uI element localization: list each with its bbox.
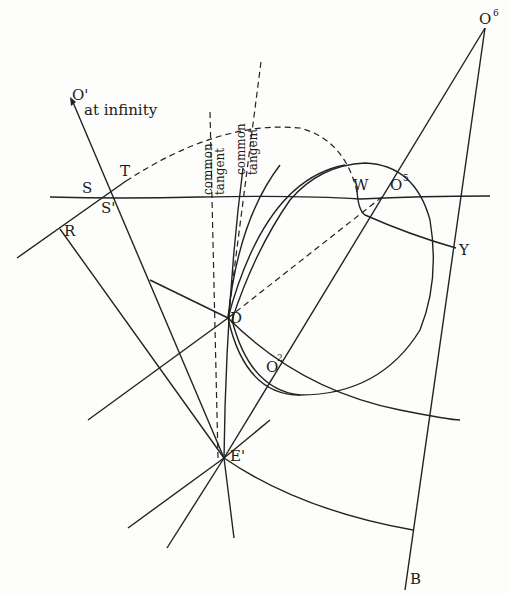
label-s: S (82, 179, 92, 197)
label-o5: O (390, 176, 402, 194)
teardrop-curve (228, 318, 300, 395)
line-r-t (17, 181, 126, 258)
label-s-prime: S' (101, 199, 115, 217)
geometric-diagram: O' at infinity O 6 T S S' R W O 5 Y D O … (0, 0, 509, 594)
curve-d-c (228, 165, 345, 318)
label-b: B (410, 570, 421, 588)
label-o5-sup: 5 (403, 173, 409, 183)
fan-line-2 (167, 458, 224, 548)
label-r: R (64, 222, 76, 240)
label-common-tangent-2b: tangent (246, 128, 260, 175)
label-w: W (353, 176, 369, 194)
curve-d-b (228, 165, 280, 318)
label-o6: O (479, 10, 491, 28)
label-o6-sup: 6 (493, 8, 499, 18)
label-t: T (120, 162, 130, 180)
line-o6-b (405, 28, 485, 590)
curve-e-prime-b (224, 458, 413, 530)
label-common-tangent-1b: tangent (213, 148, 227, 195)
fan-line-3 (224, 458, 234, 538)
label-y: Y (458, 241, 470, 259)
label-at-infinity: at infinity (84, 101, 158, 119)
label-e-prime: E' (230, 447, 245, 465)
curve-d-o2 (228, 318, 460, 420)
line-o6-e-prime (224, 28, 485, 458)
label-d: D (230, 309, 242, 327)
line-left-through-d (88, 318, 228, 420)
label-o2-sup: 2 (277, 353, 283, 363)
horizon-line (50, 196, 490, 199)
fan-line-1 (128, 458, 224, 528)
